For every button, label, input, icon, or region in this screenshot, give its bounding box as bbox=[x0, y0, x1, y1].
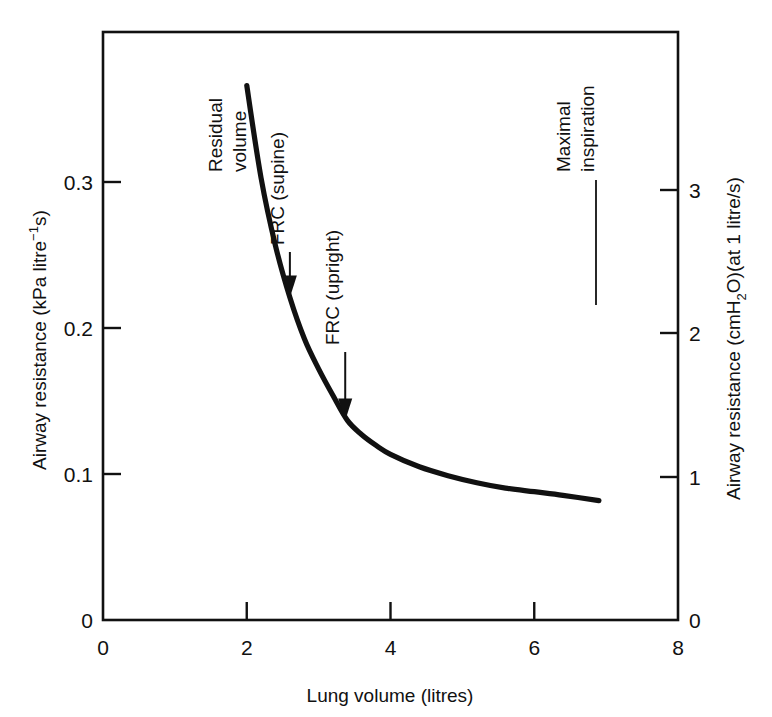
x-axis-ticks bbox=[247, 602, 535, 620]
y2-tick-label-1: 1 bbox=[689, 466, 701, 489]
airway-resistance-chart: 0 2 4 6 8 0.3 0.2 0.1 0 3 2 1 0 bbox=[0, 0, 772, 717]
y-axis-title-tail: s) bbox=[29, 210, 50, 226]
y2-tick-label-2: 2 bbox=[689, 322, 701, 345]
frc-upright-label: FRC (upright) bbox=[322, 230, 343, 345]
y2-tick-label-3: 3 bbox=[689, 179, 701, 202]
x-tick-label-6: 6 bbox=[528, 636, 540, 659]
annotation-frc-upright: FRC (upright) bbox=[322, 230, 352, 420]
y2-axis-title-tail: O)(at 1 litre/s) bbox=[723, 177, 744, 293]
frc-supine-label: FRC (supine) bbox=[267, 132, 288, 245]
y-axis-ticks bbox=[103, 182, 121, 474]
y-tick-label-0p2: 0.2 bbox=[64, 317, 93, 340]
residual-volume-label-line2: volume bbox=[229, 111, 250, 172]
annotation-residual-volume: Residual volume bbox=[205, 98, 250, 172]
x-tick-label-4: 4 bbox=[385, 636, 397, 659]
y-tick-label-0p3: 0.3 bbox=[64, 171, 93, 194]
residual-volume-label-line1: Residual bbox=[205, 98, 226, 172]
x-tick-label-2: 2 bbox=[241, 636, 253, 659]
chart-svg: 0 2 4 6 8 0.3 0.2 0.1 0 3 2 1 0 bbox=[0, 0, 772, 717]
annotation-maximal-inspiration: Maximal inspiration bbox=[553, 85, 598, 305]
y2-tick-label-0: 0 bbox=[689, 609, 701, 632]
y2-axis-title-head: Airway resistance (cmH bbox=[723, 300, 744, 500]
maximal-inspiration-label-line1: Maximal bbox=[553, 101, 574, 172]
x-tick-label-8: 8 bbox=[672, 636, 684, 659]
y-axis-tick-labels: 0.3 0.2 0.1 0 bbox=[64, 171, 93, 632]
y2-axis-tick-labels: 3 2 1 0 bbox=[689, 179, 701, 632]
x-axis-tick-labels: 0 2 4 6 8 bbox=[97, 636, 684, 659]
y-axis-title: Airway resistance (kPa litre−1s) bbox=[26, 210, 50, 470]
y-tick-label-0: 0 bbox=[81, 609, 93, 632]
y2-axis-title: Airway resistance (cmH2O)(at 1 litre/s) bbox=[723, 177, 749, 500]
y-tick-label-0p1: 0.1 bbox=[64, 463, 93, 486]
maximal-inspiration-label-line2: inspiration bbox=[577, 85, 598, 172]
y-axis-title-superscript: −1 bbox=[26, 226, 41, 241]
y-axis-title-main: Airway resistance (kPa litre bbox=[29, 241, 50, 470]
x-axis-title: Lung volume (litres) bbox=[307, 685, 474, 706]
resistance-curve bbox=[247, 86, 599, 501]
x-tick-label-0: 0 bbox=[97, 636, 109, 659]
y2-axis-title-subscript: 2 bbox=[734, 293, 749, 300]
y2-axis-ticks bbox=[660, 190, 678, 477]
